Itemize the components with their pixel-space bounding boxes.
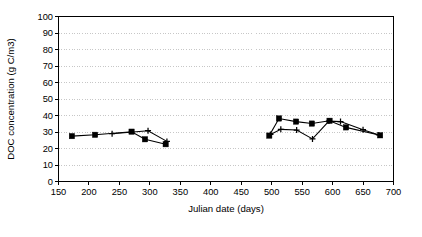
data-point-plus <box>294 127 300 133</box>
data-point-square <box>69 133 74 138</box>
y-axis-title: DOC concentration (g C/m3) <box>5 38 16 160</box>
y-tick-label-60: 60 <box>43 78 53 88</box>
data-point-square <box>293 119 298 124</box>
x-tick-label-350: 350 <box>173 187 189 197</box>
y-tick-label-90: 90 <box>43 28 53 38</box>
x-tick-label-600: 600 <box>325 187 341 197</box>
x-tick-label-650: 650 <box>355 187 371 197</box>
y-tick-label-70: 70 <box>43 61 53 71</box>
y-tick-label-80: 80 <box>43 45 53 55</box>
data-point-square <box>309 121 314 126</box>
y-tick-label-0: 0 <box>48 177 53 187</box>
data-point-square <box>276 116 281 121</box>
data-point-square <box>163 142 168 147</box>
x-axis-tick-labels-group: 150200250300350400450500550600650700 <box>51 187 402 197</box>
chart-container: 0102030405060708090100 15020025030035040… <box>0 0 422 237</box>
x-tick-label-300: 300 <box>142 187 158 197</box>
y-tick-label-20: 20 <box>43 144 53 154</box>
data-point-square <box>142 137 147 142</box>
x-tick-label-150: 150 <box>51 187 67 197</box>
gridlines-group <box>59 17 394 166</box>
data-point-plus <box>145 128 151 134</box>
x-tick-label-500: 500 <box>264 187 280 197</box>
y-tick-label-100: 100 <box>37 12 53 22</box>
data-series-layer <box>69 116 383 147</box>
doc-concentration-line-chart: 0102030405060708090100 15020025030035040… <box>0 0 422 237</box>
x-axis-title: Julian date (days) <box>188 203 264 214</box>
x-tick-label-450: 450 <box>233 187 249 197</box>
x-tick-label-200: 200 <box>81 187 97 197</box>
data-point-square <box>92 132 97 137</box>
y-tick-label-50: 50 <box>43 94 53 104</box>
x-tick-label-550: 550 <box>294 187 310 197</box>
data-point-square <box>343 125 348 130</box>
data-point-plus <box>109 131 115 137</box>
y-axis-tick-labels-group: 0102030405060708090100 <box>37 12 53 187</box>
y-tick-label-10: 10 <box>43 160 53 170</box>
x-tick-label-700: 700 <box>386 187 402 197</box>
x-tick-label-250: 250 <box>112 187 128 197</box>
y-tick-label-40: 40 <box>43 111 53 121</box>
data-point-plus <box>278 126 284 132</box>
series-3 <box>267 116 383 139</box>
y-tick-label-30: 30 <box>43 127 53 137</box>
data-point-plus <box>338 119 344 125</box>
x-tick-label-400: 400 <box>203 187 219 197</box>
